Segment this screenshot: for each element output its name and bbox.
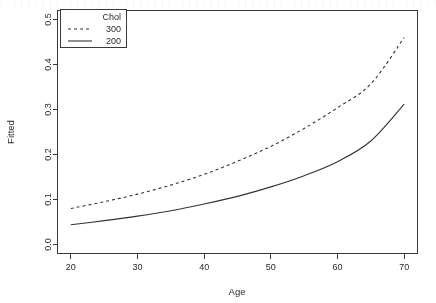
y-tick-label-0.5: 0.5 (43, 13, 53, 26)
x-tick-label-70: 70 (399, 262, 409, 272)
chart-legend: Chol 300 200 (61, 10, 127, 48)
y-tick-label-0.2: 0.2 (43, 148, 53, 161)
legend-label-200: 200 (106, 36, 121, 46)
x-tick-label-30: 30 (132, 262, 142, 272)
fitted-vs-age-line-chart: 0.00.10.20.30.40.5 203040506070 Age Fitt… (0, 0, 436, 303)
y-tick-label-0.4: 0.4 (43, 58, 53, 71)
x-tick-label-40: 40 (199, 262, 209, 272)
y-tick-label-0.1: 0.1 (43, 193, 53, 206)
x-tick-label-50: 50 (266, 262, 276, 272)
x-tick-label-60: 60 (332, 262, 342, 272)
chart-figure: 0.00.10.20.30.40.5 203040506070 Age Fitt… (0, 0, 436, 303)
y-tick-label-0.0: 0.0 (43, 238, 53, 251)
y-axis-title: Fitted (5, 120, 16, 144)
x-axis-title: Age (229, 286, 246, 297)
x-tick-label-20: 20 (66, 262, 76, 272)
legend-title: Chol (102, 12, 121, 22)
legend-label-300: 300 (106, 24, 121, 34)
y-tick-label-0.3: 0.3 (43, 103, 53, 116)
